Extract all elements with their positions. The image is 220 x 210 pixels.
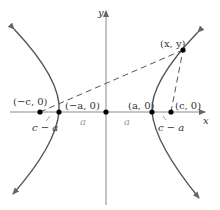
label-right-a: a <box>124 116 130 127</box>
label-left-a: a <box>80 116 86 127</box>
point-origin <box>103 109 108 114</box>
label-right-c-minus-a: c − a <box>158 122 184 133</box>
label-neg-a: (−a, 0) <box>65 100 100 111</box>
label-neg-c: (−c, 0) <box>13 96 48 107</box>
c-minus-a-left-leader <box>46 116 50 121</box>
label-pos-a: (a, 0) <box>128 100 155 111</box>
label-left-c-minus-a: c − a <box>32 122 58 133</box>
point-pos-c <box>168 109 173 114</box>
hyperbola-right-branch <box>152 32 199 198</box>
label-pos-c: (c, 0) <box>175 100 201 111</box>
hyperbola-diagram: y x (−c, 0) (−a, 0) (a, 0) (c, 0) (x, y)… <box>0 0 220 210</box>
x-axis-label: x <box>203 115 209 126</box>
c-minus-a-right-leader <box>163 116 166 120</box>
dashed-line-left-focus <box>40 50 183 112</box>
label-xy: (x, y) <box>160 38 186 49</box>
y-axis-label: y <box>97 7 104 18</box>
point-neg-a <box>56 109 61 114</box>
point-neg-c <box>37 109 42 114</box>
